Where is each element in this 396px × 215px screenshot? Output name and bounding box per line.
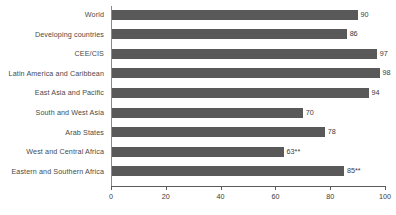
category-label: Eastern and Southern Africa	[0, 162, 104, 181]
category-label: CEE/CIS	[0, 44, 104, 63]
bar	[111, 10, 358, 20]
axis-tick	[111, 186, 112, 190]
bar-row: World90	[0, 5, 396, 24]
axis-tick-label: 0	[109, 192, 113, 201]
category-label: West and Central Africa	[0, 142, 104, 161]
bar	[111, 166, 344, 176]
axis-tick	[385, 186, 386, 190]
bar	[111, 49, 377, 59]
bar-value-label: 70	[303, 108, 314, 118]
bar	[111, 88, 369, 98]
bar-row: Developing countries86	[0, 25, 396, 44]
bar-row: East Asia and Pacific94	[0, 83, 396, 102]
bar	[111, 127, 325, 137]
bar-row: West and Central Africa63**	[0, 142, 396, 161]
axis-tick	[166, 186, 167, 190]
bar-track	[111, 10, 358, 20]
bar-value-label: 85**	[344, 166, 361, 176]
axis-tick-label: 40	[217, 192, 225, 201]
category-label: World	[0, 5, 104, 24]
bar-row: Eastern and Southern Africa85**	[0, 162, 396, 181]
bar-row: Latin America and Caribbean98	[0, 64, 396, 83]
bar-value-label: 78	[325, 127, 336, 137]
axis-tick-label: 100	[379, 192, 391, 201]
category-label: Latin America and Caribbean	[0, 64, 104, 83]
bar-value-label: 90	[358, 10, 369, 20]
bar	[111, 108, 303, 118]
bar	[111, 29, 347, 39]
bar-row: Arab States78	[0, 123, 396, 142]
bar-track	[111, 49, 377, 59]
axis-tick-label: 20	[162, 192, 170, 201]
bar-track	[111, 147, 284, 157]
bar	[111, 147, 284, 157]
plot-area: World90Developing countries86CEE/CIS97La…	[0, 0, 396, 215]
bar-track	[111, 166, 344, 176]
bar-track	[111, 68, 380, 78]
bar-row: CEE/CIS97	[0, 44, 396, 63]
axis-tick	[221, 186, 222, 190]
category-label: Arab States	[0, 123, 104, 142]
category-label: Developing countries	[0, 25, 104, 44]
axis-tick	[275, 186, 276, 190]
category-label: East Asia and Pacific	[0, 83, 104, 102]
bar-track	[111, 108, 303, 118]
bar-track	[111, 29, 347, 39]
bar-value-label: 94	[369, 88, 380, 98]
bar	[111, 68, 380, 78]
value-axis-line	[111, 6, 112, 186]
axis-tick	[330, 186, 331, 190]
bar-value-label: 98	[380, 68, 391, 78]
bar-value-label: 97	[377, 49, 388, 59]
bar-track	[111, 127, 325, 137]
bar-chart: World90Developing countries86CEE/CIS97La…	[0, 0, 396, 215]
bar-value-label: 86	[347, 29, 358, 39]
category-axis-line	[111, 186, 385, 187]
bar-row: South and West Asia70	[0, 103, 396, 122]
bar-track	[111, 88, 369, 98]
category-label: South and West Asia	[0, 103, 104, 122]
axis-tick-label: 80	[326, 192, 334, 201]
axis-tick-label: 60	[271, 192, 279, 201]
bar-value-label: 63**	[284, 147, 301, 157]
